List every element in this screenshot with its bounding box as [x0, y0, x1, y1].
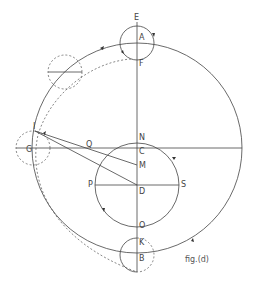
bottom-epicycle-solid: [120, 238, 137, 272]
arrow-icon: [172, 157, 176, 160]
orbit-diagram: E A F N C M D P S O K B Q G I fig.(d): [0, 0, 255, 286]
label-k: K: [139, 239, 144, 247]
label-o: O: [139, 222, 145, 230]
label-d: D: [139, 188, 145, 196]
label-a: A: [139, 34, 144, 42]
label-g: G: [26, 146, 32, 154]
label-i: I: [33, 123, 35, 131]
label-q: Q: [86, 141, 92, 149]
direction-arrows: [43, 33, 194, 242]
label-c: C: [139, 148, 145, 156]
label-b: B: [139, 255, 145, 263]
label-m: M: [139, 162, 146, 170]
label-s: S: [181, 181, 186, 189]
figure-caption: fig.(d): [185, 255, 209, 264]
label-n: N: [139, 134, 145, 142]
label-f: F: [139, 60, 144, 68]
label-e: E: [134, 14, 139, 22]
arrow-icon: [191, 238, 194, 242]
label-p: P: [88, 181, 93, 189]
diagram-svg: [0, 0, 255, 286]
